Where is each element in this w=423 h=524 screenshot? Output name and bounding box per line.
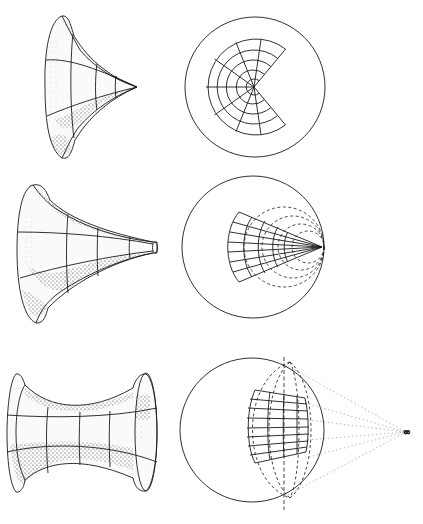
sector-grid — [206, 39, 286, 135]
rays-to-infinity — [288, 366, 406, 495]
model-sector-disk — [185, 17, 325, 157]
region-grid — [247, 390, 309, 463]
infinity-label: ∞ — [403, 427, 411, 437]
wedge-grid — [228, 212, 322, 282]
surface-catenoid-saddle — [7, 373, 157, 492]
surface-pseudosphere-cone — [45, 16, 137, 158]
hyperbolic-surfaces-figure: ∞ — [0, 0, 423, 524]
model-ultra-ideal-region: ∞ — [180, 357, 411, 510]
boundary-circle — [180, 358, 324, 502]
model-horocycle-wedge — [182, 176, 324, 318]
boundary-circle — [182, 176, 324, 318]
surface-trumpet-horn — [17, 185, 158, 323]
